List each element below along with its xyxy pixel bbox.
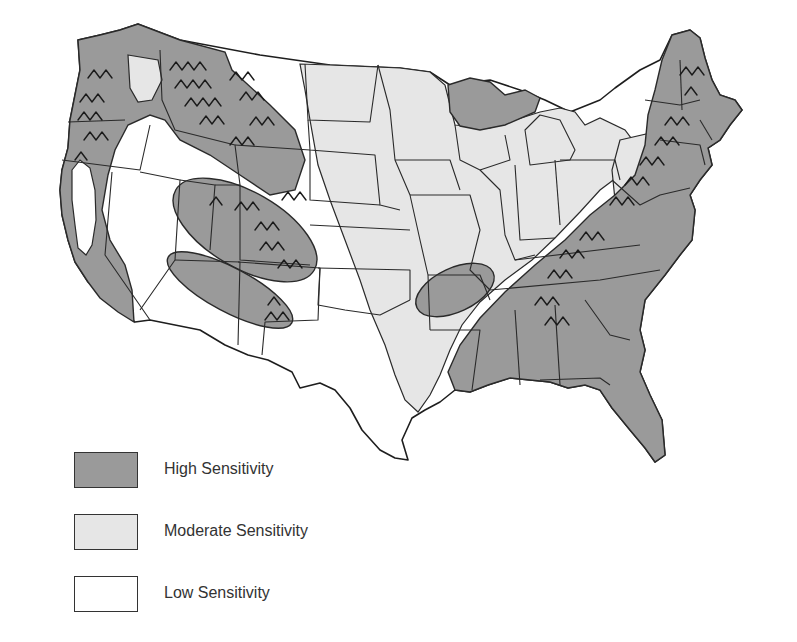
- legend-item-moderate: Moderate Sensitivity: [74, 514, 394, 556]
- legend-label-low: Low Sensitivity: [164, 584, 270, 602]
- swatch-high: [74, 452, 138, 488]
- legend-label-moderate: Moderate Sensitivity: [164, 522, 308, 540]
- swatch-low: [74, 576, 138, 612]
- swatch-moderate: [74, 514, 138, 550]
- legend-item-low: Low Sensitivity: [74, 576, 394, 618]
- legend-label-high: High Sensitivity: [164, 460, 273, 478]
- legend-item-high: High Sensitivity: [74, 452, 394, 494]
